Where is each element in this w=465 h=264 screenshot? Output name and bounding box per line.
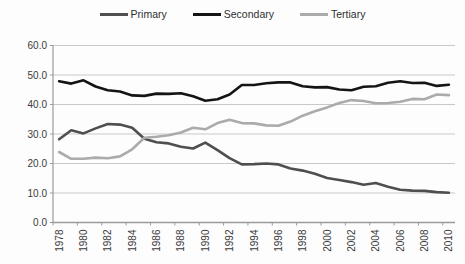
x-tick-label: 1992 — [224, 229, 235, 252]
x-tick-label: 1984 — [127, 229, 138, 252]
x-tick-label: 2000 — [322, 229, 333, 252]
x-tick-label: 1994 — [249, 229, 260, 252]
y-tick-label: 0.0 — [33, 217, 47, 228]
y-tick-label: 10.0 — [28, 188, 48, 199]
y-tick-label: 20.0 — [28, 158, 48, 169]
x-tick-label: 1978 — [54, 229, 65, 252]
y-tick-label: 40.0 — [28, 99, 48, 110]
x-tick-label: 1986 — [151, 229, 162, 252]
x-tick-label: 2006 — [395, 229, 406, 252]
y-tick-label: 30.0 — [28, 129, 48, 140]
x-tick-label: 1996 — [273, 229, 284, 252]
x-tick-label: 1988 — [175, 229, 186, 252]
x-tick-label: 1998 — [297, 229, 308, 252]
line-chart-figure: Primary Secondary Tertiary 0.010.020.030… — [0, 0, 465, 264]
x-tick-label: 2002 — [346, 229, 357, 252]
x-tick-label: 1982 — [102, 229, 113, 252]
x-tick-label: 1990 — [200, 229, 211, 252]
series-line-secondary — [59, 80, 449, 100]
x-tick-label: 2010 — [443, 229, 454, 252]
x-tick-label: 2008 — [419, 229, 430, 252]
y-tick-label: 50.0 — [28, 70, 48, 81]
y-tick-label: 60.0 — [28, 40, 48, 51]
x-tick-label: 2004 — [370, 229, 381, 252]
chart-plot-area: 0.010.020.030.040.050.060.01978198019821… — [0, 0, 465, 264]
x-tick-label: 1980 — [78, 229, 89, 252]
